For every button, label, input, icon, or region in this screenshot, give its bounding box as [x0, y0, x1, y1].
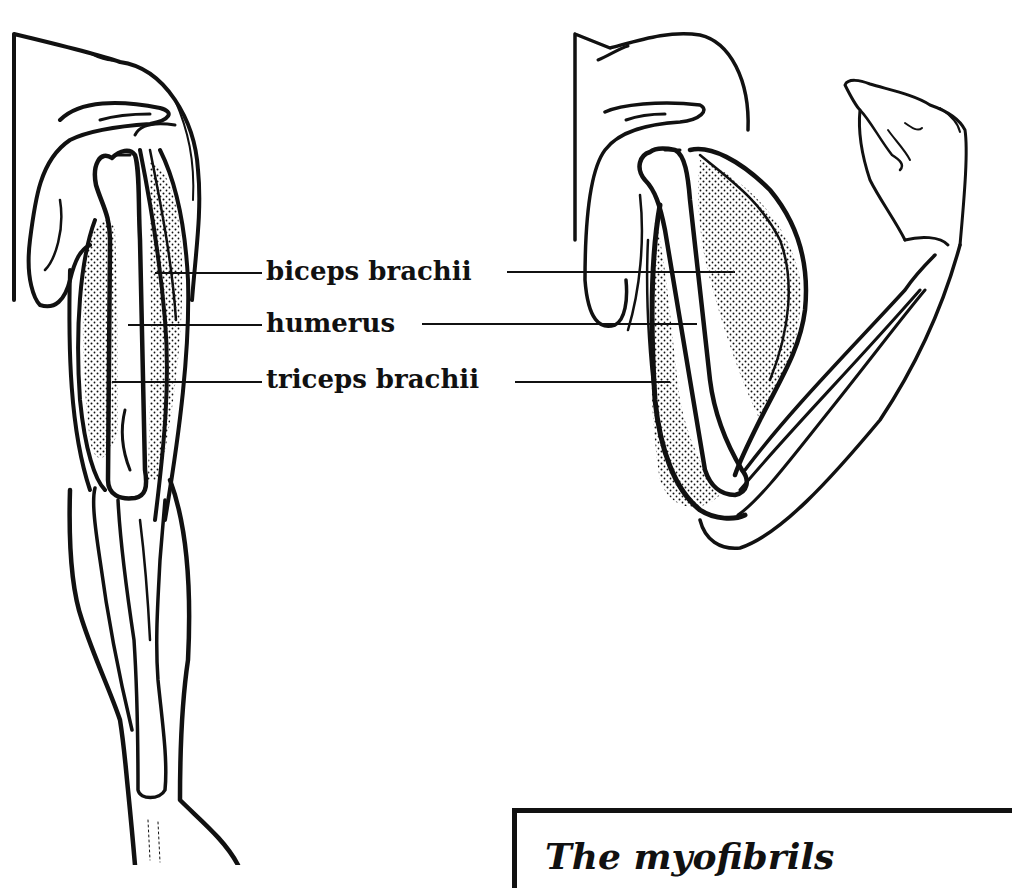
label-triceps-brachii: triceps brachii [262, 366, 483, 392]
info-box-title: The myofibrils [545, 835, 834, 877]
flexed-arm-figure [575, 34, 966, 549]
info-box: The myofibrils [512, 808, 1012, 888]
label-humerus: humerus [262, 310, 399, 336]
extended-arm-figure [14, 34, 238, 865]
label-biceps-brachii: biceps brachii [262, 258, 476, 284]
